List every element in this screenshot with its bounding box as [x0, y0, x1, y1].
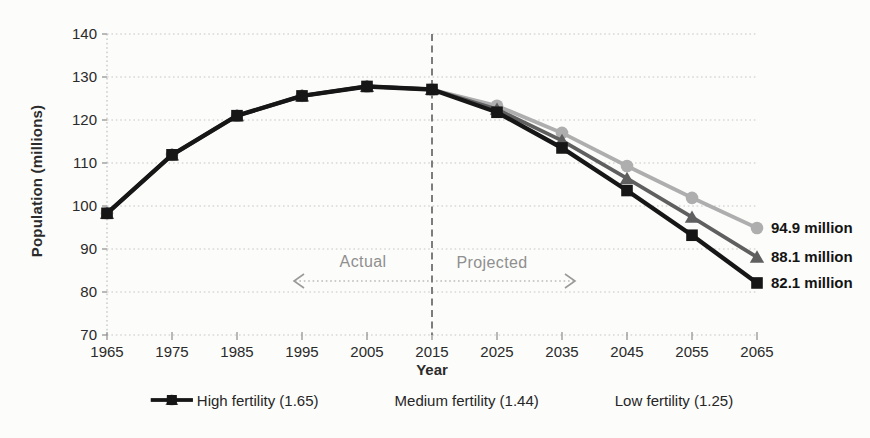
series-2-marker: [491, 106, 503, 118]
y-tick-label: 110: [73, 154, 97, 171]
y-tick-label: 90: [80, 240, 97, 257]
end-label-medium-fertility: 88.1 million: [771, 248, 853, 266]
legend-label: Medium fertility (1.44): [395, 392, 539, 409]
series-2-marker: [101, 208, 113, 220]
x-tick-label: 1975: [155, 343, 188, 360]
x-tick-label: 1985: [220, 343, 253, 360]
x-tick-label: 2025: [480, 343, 513, 360]
x-tick-label: 1965: [90, 343, 123, 360]
y-tick-label: 120: [72, 111, 97, 128]
legend-line-icon: [149, 392, 195, 408]
x-tick-label: 2005: [350, 343, 383, 360]
legend: High fertility (1.65) Medium fertility (…: [149, 392, 733, 409]
series-0-marker: [621, 160, 634, 173]
series-2-marker: [296, 90, 308, 102]
legend-item-low-fertility: Low fertility (1.25): [567, 392, 733, 409]
y-tick-label: 140: [72, 25, 97, 42]
series-2-marker: [556, 142, 568, 154]
series-2-marker: [621, 185, 633, 197]
end-label-high-fertility: 94.9 million: [771, 219, 853, 237]
square-marker-icon: [167, 395, 177, 405]
legend-item-medium-fertility: Medium fertility (1.44): [347, 392, 539, 409]
series-2-marker: [686, 229, 698, 241]
x-tick-label: 2055: [675, 343, 708, 360]
series-2-marker: [751, 277, 763, 289]
series-2-marker: [231, 110, 243, 122]
annotation-actual: Actual: [340, 253, 387, 271]
population-projection-chart: 7080901001101201301401965197519851995200…: [0, 0, 870, 438]
series-2-marker: [426, 84, 438, 96]
annotation-projected: Projected: [456, 254, 527, 272]
series-0-marker: [751, 222, 764, 235]
end-label-low-fertility: 82.1 million: [771, 274, 853, 292]
legend-label: High fertility (1.65): [197, 392, 319, 409]
series-2-marker: [166, 149, 178, 161]
series-0-marker: [686, 192, 699, 205]
x-tick-label: 2035: [545, 343, 578, 360]
x-tick-label: 2015: [415, 343, 448, 360]
y-tick-label: 100: [72, 197, 97, 214]
y-axis-title: Population (millions): [28, 105, 45, 258]
y-tick-label: 130: [72, 68, 97, 85]
x-axis-title: Year: [416, 361, 448, 378]
x-tick-label: 2045: [610, 343, 643, 360]
y-tick-label: 70: [80, 326, 97, 343]
x-tick-label: 2065: [740, 343, 773, 360]
series-2-marker: [361, 81, 373, 93]
medium-fertility-marker-icon: [347, 393, 393, 409]
x-tick-label: 1995: [285, 343, 318, 360]
low-fertility-marker-icon: [567, 393, 613, 409]
legend-label: Low fertility (1.25): [615, 392, 733, 409]
y-tick-label: 80: [80, 283, 97, 300]
